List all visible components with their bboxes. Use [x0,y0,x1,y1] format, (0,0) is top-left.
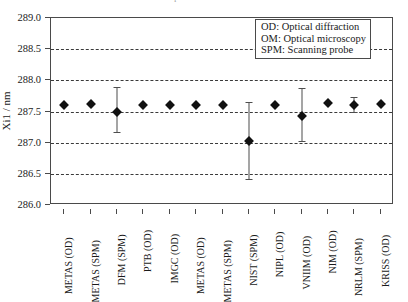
error-bar-cap [245,179,252,180]
data-point [376,99,386,109]
x-tick-label: NIM (OD) [327,231,338,274]
data-point [165,100,175,110]
error-bar-cap [298,141,305,142]
gridline [51,174,392,175]
x-axis-labels: METAS (OD)METAS (SPM)DFM (SPM)PTB (OD)IM… [50,209,393,287]
x-tick-label: NIPL (OD) [274,232,285,277]
x-tick-mark [169,209,170,214]
y-tick-label: 286.0 [17,199,41,210]
x-tick-mark [380,209,381,214]
x-tick-mark [274,209,275,214]
x-tick-label: METAS (OD) [195,237,206,294]
x-tick-label: NRLM (SPM) [353,238,364,296]
x-tick-mark [353,209,354,214]
x-tick-mark [142,209,143,214]
x-tick-label: METAS (SPM) [222,240,233,302]
data-point [59,100,69,110]
legend-item: OD: Optical diffraction [261,21,366,33]
legend-box: OD: Optical diffractionOM: Optical micro… [255,19,371,59]
x-tick-label: PTB (OD) [142,230,153,272]
error-bar-cap [351,112,358,113]
x-tick-mark [63,209,64,214]
x-tick-label: METAS (SPM) [90,240,101,302]
gridline [51,112,392,113]
y-tick-label: 287.5 [17,105,41,116]
y-tick-label: 288.5 [17,43,41,54]
x-tick-label: KRISS (OD) [380,235,391,287]
x-tick-label: DFM (SPM) [116,234,127,285]
data-point [244,136,254,146]
error-bar-cap [245,102,252,103]
data-point [270,100,280,110]
y-tick-label: 288.0 [17,74,41,85]
data-point [349,100,359,110]
x-tick-label: IMGC (OD) [169,234,180,284]
x-tick-mark [301,209,302,214]
gridline [51,80,392,81]
x-tick-mark [195,209,196,214]
y-tick-label: 287.0 [17,136,41,147]
x-tick-mark [248,209,249,214]
y-tick-label: 286.5 [17,167,41,178]
data-point [323,98,333,108]
data-point [191,100,201,110]
y-tick-mark [45,204,50,205]
data-point [86,99,96,109]
error-bar-cap [113,87,120,88]
cutoff-title-text: Comparison of Xi1 results [0,0,408,2]
y-axis: 286.0286.5287.0287.5288.0288.5289.0 [0,17,50,204]
x-tick-mark [222,209,223,214]
x-tick-label: METAS (OD) [63,237,74,294]
legend-item: SPM: Scanning probe [261,44,366,56]
x-tick-label: VNIIM (OD) [301,236,312,290]
x-tick-mark [90,209,91,214]
error-bar-cap [351,97,358,98]
legend-item: OM: Optical microscopy [261,33,366,45]
cutoff-title: Comparison of Xi1 results [0,0,408,7]
data-point [138,100,148,110]
error-bar-cap [298,88,305,89]
gridline [51,143,392,144]
x-tick-label: NIST (SPM) [248,235,259,286]
x-tick-mark [327,209,328,214]
y-tick-label: 289.0 [17,12,41,23]
x-tick-mark [116,209,117,214]
data-point [112,107,122,117]
data-point [297,112,307,122]
error-bar-cap [113,132,120,133]
data-point [218,100,228,110]
